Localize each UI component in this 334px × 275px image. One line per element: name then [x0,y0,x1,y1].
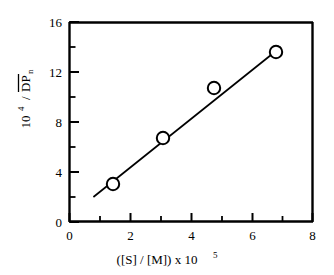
data-point [208,82,220,94]
svg-text:([S] / [M]) x 10: ([S] / [M]) x 10 [117,252,198,267]
y-tick-label-0: 0 [56,215,63,230]
y-axis-major-ticks [70,22,80,222]
x-axis-major-ticks [70,213,313,222]
scatter-plot-canvas: 0 4 8 12 16 0 2 4 6 8 ([S] / [M]) x 10 5… [0,0,334,275]
svg-text:10: 10 [18,116,33,129]
y-tick-label-8: 8 [56,115,63,130]
svg-text:5: 5 [213,250,218,260]
data-point [157,132,169,144]
x-tick-label-2: 2 [127,228,134,243]
data-point [270,46,282,58]
x-axis-title: ([S] / [M]) x 10 5 [117,250,218,267]
trend-line [93,47,281,197]
x-tick-label-0: 0 [66,228,73,243]
svg-text:4: 4 [16,106,26,111]
svg-text:/: / [18,96,33,100]
y-axis-title-term: DP [18,75,33,92]
x-tick-label-8: 8 [309,228,316,243]
x-axis-title-exponent: 5 [213,250,218,260]
svg-text:n: n [25,69,35,74]
svg-text:DP: DP [18,75,33,92]
y-tick-label-16: 16 [49,15,63,30]
x-axis-title-main: ([S] / [M]) x 10 [117,252,198,267]
y-axis-title-slash: / [18,96,33,100]
x-tick-label-6: 6 [249,228,256,243]
y-tick-label-12: 12 [49,65,62,80]
y-axis-title-exponent: 4 [16,106,26,111]
y-axis-title-subscript: n [25,69,35,74]
y-tick-label-4: 4 [56,165,63,180]
chart-figure: 0 4 8 12 16 0 2 4 6 8 ([S] / [M]) x 10 5… [0,0,334,275]
x-tick-label-4: 4 [188,228,195,243]
data-point [107,178,119,190]
y-axis-title-base: 10 [18,116,33,129]
y-axis-title: 10 4 / DP n [16,69,35,129]
